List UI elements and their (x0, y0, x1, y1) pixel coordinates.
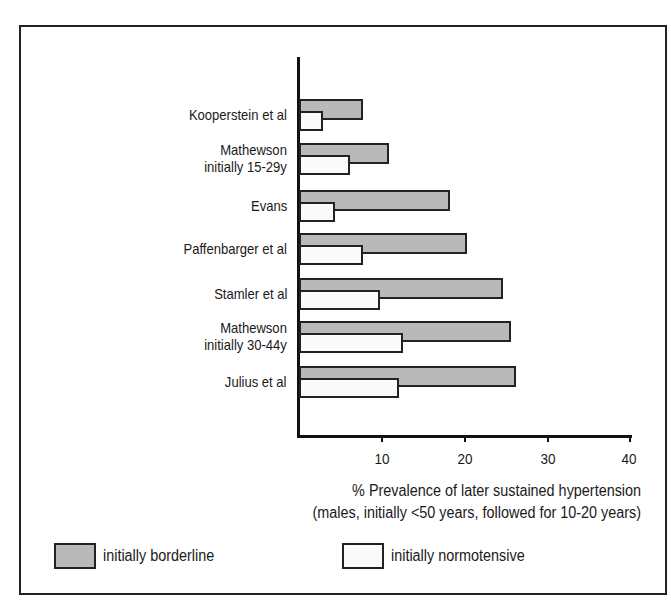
category-label-line: Paffenbarger et al (183, 241, 287, 258)
x-tick-label: 20 (452, 450, 479, 467)
legend-swatch-borderline (54, 543, 96, 569)
bar-normotensive (299, 333, 403, 353)
category-label: Stamler et al (214, 286, 287, 303)
x-tick-40 (629, 437, 631, 442)
bar-normotensive (299, 202, 335, 222)
category-label-line: initially 15-29y (204, 159, 287, 176)
category-label: Evans (251, 198, 287, 215)
category-label: Kooperstein et al (189, 107, 287, 124)
x-tick-label: 40 (616, 450, 643, 467)
category-label: Paffenbarger et al (183, 241, 287, 258)
category-label-line: Stamler et al (214, 286, 287, 303)
legend-label-normotensive: initially normotensive (391, 547, 525, 565)
x-tick-label: 10 (369, 450, 396, 467)
bar-normotensive (299, 155, 350, 175)
bar-normotensive (299, 290, 380, 310)
category-label: Mathewsoninitially 15-29y (204, 142, 287, 176)
category-label-line: Kooperstein et al (189, 107, 287, 124)
legend-swatch-normotensive (342, 543, 384, 569)
x-axis-subtitle: (males, initially <50 years, followed fo… (312, 504, 641, 522)
category-label: Mathewsoninitially 30-44y (204, 320, 287, 354)
legend-label-borderline: initially borderline (103, 547, 214, 565)
category-label-line: Julius et al (225, 374, 287, 391)
x-tick-label: 30 (535, 450, 562, 467)
category-label-line: Mathewson (204, 142, 287, 159)
category-label-line: Mathewson (204, 320, 287, 337)
category-label: Julius et al (225, 374, 287, 391)
bar-normotensive (299, 111, 323, 131)
x-tick-10 (381, 437, 383, 442)
category-label-line: Evans (251, 198, 287, 215)
x-tick-20 (464, 437, 466, 442)
x-tick-30 (547, 437, 549, 442)
category-label-line: initially 30-44y (204, 337, 287, 354)
bar-normotensive (299, 245, 363, 265)
x-axis-title: % Prevalence of later sustained hyperten… (352, 482, 641, 500)
bar-normotensive (299, 378, 399, 398)
